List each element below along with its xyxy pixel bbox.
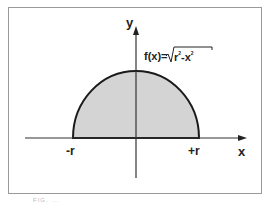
figure-caption: FIG. ... (33, 197, 59, 203)
sqrt-content: r2-x2 (174, 51, 194, 63)
function-label: f(x)= (144, 51, 168, 62)
tick-label-plus-r: +r (188, 145, 200, 157)
semicircle-diagram (0, 0, 270, 204)
y-axis-label: y (126, 16, 133, 29)
function-prefix: f(x)= (144, 50, 168, 62)
x-axis-arrow-icon (238, 135, 247, 141)
x-axis-label: x (238, 145, 245, 158)
sqrt-x-exp: 2 (191, 50, 194, 56)
tick-label-minus-r: -r (66, 145, 75, 157)
y-axis-arrow-icon (133, 26, 139, 35)
